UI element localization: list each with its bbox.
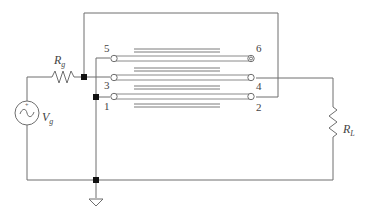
ground-icon (89, 199, 103, 206)
junction-node-ground (93, 177, 99, 183)
rg-label: Rg (53, 53, 65, 69)
transmission-line-3-4 (111, 74, 254, 80)
vg-label: Vg (42, 110, 53, 126)
rl-label: RL (342, 122, 355, 138)
terminal-6-label: 6 (256, 42, 262, 54)
terminal-2-label: 2 (256, 101, 262, 113)
core-stack (134, 49, 220, 107)
source-top-wire (27, 77, 48, 101)
load-top-wire (256, 78, 333, 107)
terminal-1-label: 1 (104, 100, 110, 112)
junction-node-1 (93, 94, 99, 100)
source-bottom-wire (27, 125, 333, 180)
transmission-line-5-6 (111, 55, 254, 61)
svg-text:+: + (25, 101, 29, 107)
circuit-diagram: + Vg Rg RL 5 3 1 6 4 2 (0, 0, 367, 216)
rl-resistor (329, 107, 337, 180)
transmission-line-1-2 (111, 93, 254, 99)
terminal-4-label: 4 (256, 80, 262, 92)
rg-resistor (48, 71, 84, 83)
junction-node-rg (81, 74, 87, 80)
terminal-5-label: 5 (104, 42, 110, 54)
ac-source-icon: + (15, 101, 39, 125)
ground-bus-wire (96, 58, 110, 180)
terminal-3-label: 3 (104, 79, 110, 91)
